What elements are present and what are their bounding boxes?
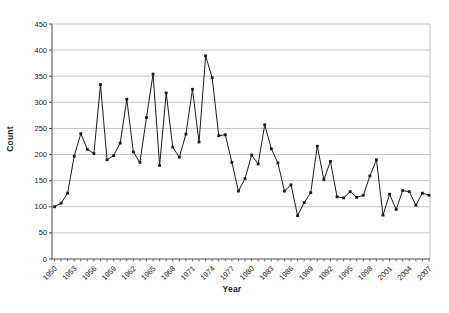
data-point-1971 [191,88,194,91]
x-tick-label: 1974 [198,264,216,282]
chart-canvas: 0501001502002503003504004501950195319561… [0,0,449,313]
data-point-1993 [336,195,339,198]
x-tick-label: 2007 [415,264,433,282]
data-point-1961 [125,98,128,101]
data-point-1954 [79,132,82,135]
y-tick-label: 450 [34,20,47,29]
x-tick-label: 1953 [60,264,78,282]
data-point-1973 [204,54,207,57]
data-point-1968 [171,146,174,149]
data-point-1962 [132,151,135,154]
data-point-1951 [60,202,63,205]
data-point-1987 [296,214,299,217]
y-axis-title: Count [5,114,17,164]
data-point-1967 [165,92,168,95]
data-point-1988 [303,201,306,204]
data-point-1992 [329,160,332,163]
data-point-1980 [250,154,253,157]
chart-container: 0501001502002503003504004501950195319561… [0,0,449,313]
y-tick-label: 0 [43,255,47,264]
x-tick-label: 1980 [238,264,256,282]
data-point-1982 [263,123,266,126]
x-tick-label: 1968 [159,264,177,282]
x-tick-label: 1983 [258,264,276,282]
x-tick-label: 1950 [41,264,59,282]
data-point-1998 [368,175,371,178]
data-point-1977 [230,161,233,164]
x-tick-label: 1962 [120,264,138,282]
data-point-2000 [382,214,385,217]
series-line [55,56,430,216]
data-point-1983 [270,147,273,150]
data-point-1999 [375,158,378,161]
data-point-1959 [112,154,115,157]
data-point-2005 [414,204,417,207]
y-tick-label: 200 [34,150,47,159]
data-point-1955 [86,148,89,151]
data-point-1957 [99,83,102,86]
x-tick-label: 1989 [297,264,315,282]
y-tick-label: 50 [39,228,47,237]
data-point-1990 [316,145,319,148]
data-point-1956 [93,152,96,155]
data-point-2001 [388,193,391,196]
x-tick-label: 1965 [139,264,157,282]
data-point-1963 [139,161,142,164]
x-tick-label: 1986 [277,264,295,282]
data-point-1984 [276,162,279,165]
x-tick-label: 1977 [218,264,236,282]
data-point-1981 [257,163,260,166]
data-point-1994 [342,197,345,200]
data-point-1978 [237,190,240,193]
data-point-2003 [401,189,404,192]
y-tick-label: 300 [34,98,47,107]
data-point-1966 [158,164,161,167]
y-tick-label: 250 [34,124,47,133]
data-point-1996 [355,196,358,199]
y-tick-label: 150 [34,176,47,185]
data-point-2006 [421,192,424,195]
y-tick-label: 400 [34,46,47,55]
data-point-1964 [145,116,148,119]
data-point-1985 [283,190,286,193]
y-tick-label: 350 [34,72,47,81]
data-point-1975 [217,134,220,137]
data-point-1958 [106,158,109,161]
data-point-2004 [408,190,411,193]
data-point-1995 [349,190,352,193]
x-axis-title: Year [52,284,412,294]
x-tick-label: 2001 [376,264,394,282]
data-point-1989 [309,191,312,194]
x-tick-label: 1971 [179,264,197,282]
y-tick-label: 100 [34,202,47,211]
data-point-1997 [362,194,365,197]
data-point-1969 [178,156,181,159]
x-tick-label: 2004 [396,264,414,282]
data-point-1991 [322,178,325,181]
data-point-1979 [244,177,247,180]
x-tick-label: 1959 [100,264,118,282]
data-point-1970 [185,133,188,136]
data-point-1974 [211,76,214,79]
data-point-1953 [73,155,76,158]
data-point-1950 [53,205,56,208]
data-point-1972 [198,141,201,144]
data-point-1965 [152,73,155,76]
data-point-1960 [119,142,122,145]
data-point-2002 [395,208,398,211]
data-point-1986 [290,183,293,186]
data-point-2007 [428,194,431,197]
data-point-1976 [224,133,227,136]
data-point-1952 [66,192,69,195]
x-tick-label: 1998 [356,264,374,282]
x-tick-label: 1992 [317,264,335,282]
x-tick-label: 1995 [336,264,354,282]
x-tick-label: 1956 [80,264,98,282]
